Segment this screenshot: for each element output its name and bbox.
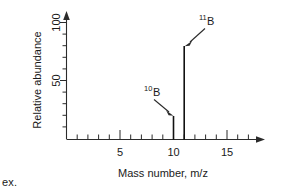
annotation-b10-arrow-line [154,100,169,113]
x-axis-title: Mass number, m/z [118,167,208,179]
peak-label-b10-superscript: 10 [144,84,152,93]
x-tick-label-10: 10 [167,146,179,158]
annotation-b11: 11 B [185,13,215,46]
y-axis-title: Relative abundance [31,31,43,128]
figure-note: ex. [2,176,17,188]
annotation-b11-arrowhead [185,41,193,46]
y-tick-label-100: 100 [50,13,62,31]
y-axis-arrowhead [63,11,70,20]
spectrum-peaks [174,46,185,140]
x-axis: 5 10 15 Mass number, m/z [67,130,266,179]
peak-label-b10-symbol: B [153,86,160,98]
y-axis: 100 50 Relative abundance [31,11,70,139]
peak-label-b11-superscript: 11 [199,13,207,22]
x-axis-arrowhead [256,136,265,143]
mass-spectrum-chart: 100 50 Relative abundance [0,0,282,196]
y-tick-label-50: 50 [50,74,62,86]
x-tick-label-15: 15 [221,146,233,158]
annotation-b10: 10 B [144,84,174,116]
x-tick-label-5: 5 [117,146,123,158]
mass-spectrum-figure: 100 50 Relative abundance [0,0,282,196]
peak-label-b11-symbol: B [207,15,214,27]
annotation-b11-arrow-line [190,29,205,43]
